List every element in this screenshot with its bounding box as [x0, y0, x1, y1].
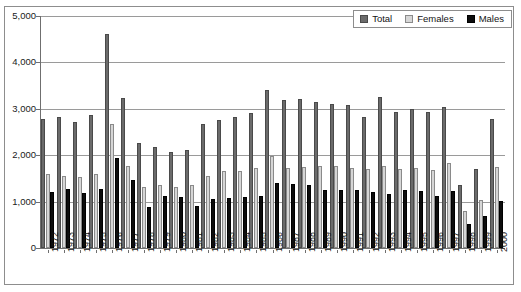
x-tick-label: 1978 — [136, 250, 151, 290]
bar-group — [441, 16, 456, 248]
bar-female — [318, 166, 322, 248]
x-tick-mark — [321, 250, 322, 253]
bar-female — [334, 166, 338, 248]
legend-label: Total — [372, 14, 392, 24]
bar-female — [366, 169, 370, 248]
bar-total — [410, 109, 414, 248]
bar-group — [489, 16, 504, 248]
bar-female — [110, 124, 114, 248]
bar-group — [56, 16, 71, 248]
bar-chart: 01,0002,0003,0004,0005,000 1972197319741… — [0, 0, 521, 292]
x-axis: 1972197319741975197619771978197919801981… — [40, 250, 505, 292]
x-tick-label: 1976 — [104, 250, 119, 290]
x-tick-label: 1997 — [441, 250, 456, 290]
bar-total — [394, 112, 398, 248]
y-tick-label: 2,000 — [2, 150, 36, 160]
x-tick-label: 1994 — [393, 250, 408, 290]
bar-group — [105, 16, 120, 248]
x-tick-mark — [128, 250, 129, 253]
legend-swatch-female-icon — [405, 15, 413, 23]
bar-total — [265, 90, 269, 248]
legend-item-total[interactable]: Total — [360, 14, 392, 24]
bar-group — [313, 16, 328, 248]
x-tick-label: 1990 — [329, 250, 344, 290]
x-tick-mark — [337, 250, 338, 253]
x-tick-mark — [96, 250, 97, 253]
x-tick-label: 1999 — [473, 250, 488, 290]
bar-group — [361, 16, 376, 248]
bar-group — [169, 16, 184, 248]
x-tick-label: 2000 — [489, 250, 504, 290]
x-tick-mark — [353, 250, 354, 253]
bar-female — [431, 170, 435, 248]
legend-swatch-total-icon — [360, 15, 368, 23]
bar-group — [393, 16, 408, 248]
bar-total — [314, 102, 318, 248]
bar-group — [265, 16, 280, 248]
bar-total — [201, 124, 205, 248]
bar-group — [89, 16, 104, 248]
x-tick-mark — [80, 250, 81, 253]
x-tick-mark — [144, 250, 145, 253]
x-tick-label: 1984 — [232, 250, 247, 290]
y-tick-label: 5,000 — [2, 11, 36, 21]
bar-group — [72, 16, 87, 248]
x-tick-label: 1974 — [72, 250, 87, 290]
bar-group — [40, 16, 55, 248]
bar-total — [217, 120, 221, 248]
legend-label: Males — [479, 14, 504, 24]
bar-female — [414, 168, 418, 248]
bar-total — [378, 97, 382, 248]
bar-total — [346, 105, 350, 248]
x-tick-label: 1988 — [297, 250, 312, 290]
x-tick-label: 1982 — [200, 250, 215, 290]
legend-item-male[interactable]: Males — [467, 14, 504, 24]
bar-total — [442, 107, 446, 248]
x-tick-label: 1985 — [248, 250, 263, 290]
x-tick-mark — [449, 250, 450, 253]
legend-item-female[interactable]: Females — [405, 14, 453, 24]
x-tick-label: 1975 — [88, 250, 103, 290]
bar-total — [233, 117, 237, 248]
x-tick-mark — [385, 250, 386, 253]
bar-group — [153, 16, 168, 248]
bar-total — [298, 99, 302, 248]
x-tick-label: 1973 — [56, 250, 71, 290]
bar-female — [302, 167, 306, 248]
chart-legend: TotalFemalesMales — [353, 10, 512, 28]
bar-female — [463, 211, 467, 248]
bar-total — [121, 98, 125, 248]
x-tick-label: 1989 — [313, 250, 328, 290]
bar-total — [57, 117, 61, 248]
x-tick-label: 1977 — [120, 250, 135, 290]
x-tick-label: 1980 — [168, 250, 183, 290]
bar-total — [330, 104, 334, 248]
bar-group — [121, 16, 136, 248]
bar-total — [89, 115, 93, 248]
x-tick-label: 1992 — [361, 250, 376, 290]
x-tick-mark — [256, 250, 257, 253]
x-tick-mark — [160, 250, 161, 253]
bar-group — [457, 16, 472, 248]
bar-group — [425, 16, 440, 248]
bar-total — [73, 122, 77, 248]
x-tick-label: 1998 — [457, 250, 472, 290]
x-tick-mark — [224, 250, 225, 253]
bar-total — [426, 112, 430, 248]
x-tick-mark — [48, 250, 49, 253]
bar-group — [377, 16, 392, 248]
bar-group — [201, 16, 216, 248]
x-tick-label: 1995 — [409, 250, 424, 290]
x-tick-mark — [192, 250, 193, 253]
bar-group — [409, 16, 424, 248]
x-tick-label: 1991 — [345, 250, 360, 290]
y-tick-label: 0 — [2, 243, 36, 253]
y-axis: 01,0002,0003,0004,0005,000 — [0, 0, 36, 260]
x-tick-label: 1979 — [152, 250, 167, 290]
bar-group — [281, 16, 296, 248]
bar-female — [286, 168, 290, 248]
x-tick-mark — [369, 250, 370, 253]
x-tick-label: 1986 — [264, 250, 279, 290]
bar-total — [362, 117, 366, 248]
x-tick-label: 1993 — [377, 250, 392, 290]
